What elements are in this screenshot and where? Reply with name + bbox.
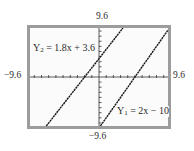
xmin-label: −9.6 bbox=[4, 71, 21, 81]
xmax-label: 9.6 bbox=[173, 71, 185, 81]
y1-equation-label: Y1 = 2x − 10 bbox=[117, 106, 169, 117]
ymin-label: −9.6 bbox=[89, 132, 106, 142]
ymax-label: 9.6 bbox=[96, 12, 108, 22]
y2-equation-label: Y2 = 1.8x + 3.6 bbox=[33, 43, 95, 54]
